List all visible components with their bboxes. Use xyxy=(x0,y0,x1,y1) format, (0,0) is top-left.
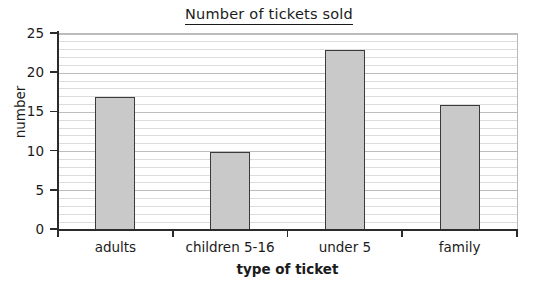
minor-gridline xyxy=(58,88,517,89)
x-axis-tick xyxy=(516,230,518,237)
y-axis-tick xyxy=(50,189,58,191)
x-axis-category-label: family xyxy=(439,239,481,255)
x-axis-category-label: children 5-16 xyxy=(186,239,275,255)
minor-gridline xyxy=(58,57,517,58)
y-axis-line xyxy=(57,31,59,231)
bar xyxy=(325,50,365,230)
bar xyxy=(440,105,480,230)
y-axis-title: number xyxy=(12,72,28,152)
y-axis-tick xyxy=(50,71,58,73)
plot-area xyxy=(58,33,518,230)
y-axis-tick-label: 0 xyxy=(0,221,44,237)
y-axis-tick xyxy=(50,150,58,152)
minor-gridline xyxy=(58,49,517,50)
minor-gridline xyxy=(58,65,517,66)
x-axis-category-label: adults xyxy=(95,239,136,255)
minor-gridline xyxy=(58,81,517,82)
bar xyxy=(95,97,135,230)
y-axis-tick xyxy=(50,32,58,34)
x-axis-title: type of ticket xyxy=(58,261,517,277)
y-axis-tick-label: 25 xyxy=(0,25,44,41)
x-axis-category-label: under 5 xyxy=(319,239,371,255)
y-axis-tick xyxy=(50,111,58,113)
x-axis-tick xyxy=(172,230,174,237)
bar-chart: Number of tickets sold 0510152025 number… xyxy=(0,0,538,288)
x-axis-tick xyxy=(57,230,59,237)
bar xyxy=(210,152,250,230)
y-axis-tick-label: 5 xyxy=(0,182,44,198)
major-gridline xyxy=(58,34,517,35)
x-axis-tick xyxy=(287,230,289,237)
chart-title-text: Number of tickets sold xyxy=(185,6,353,25)
x-axis-tick xyxy=(401,230,403,237)
minor-gridline xyxy=(58,41,517,42)
major-gridline xyxy=(58,73,517,74)
chart-title: Number of tickets sold xyxy=(0,6,538,22)
